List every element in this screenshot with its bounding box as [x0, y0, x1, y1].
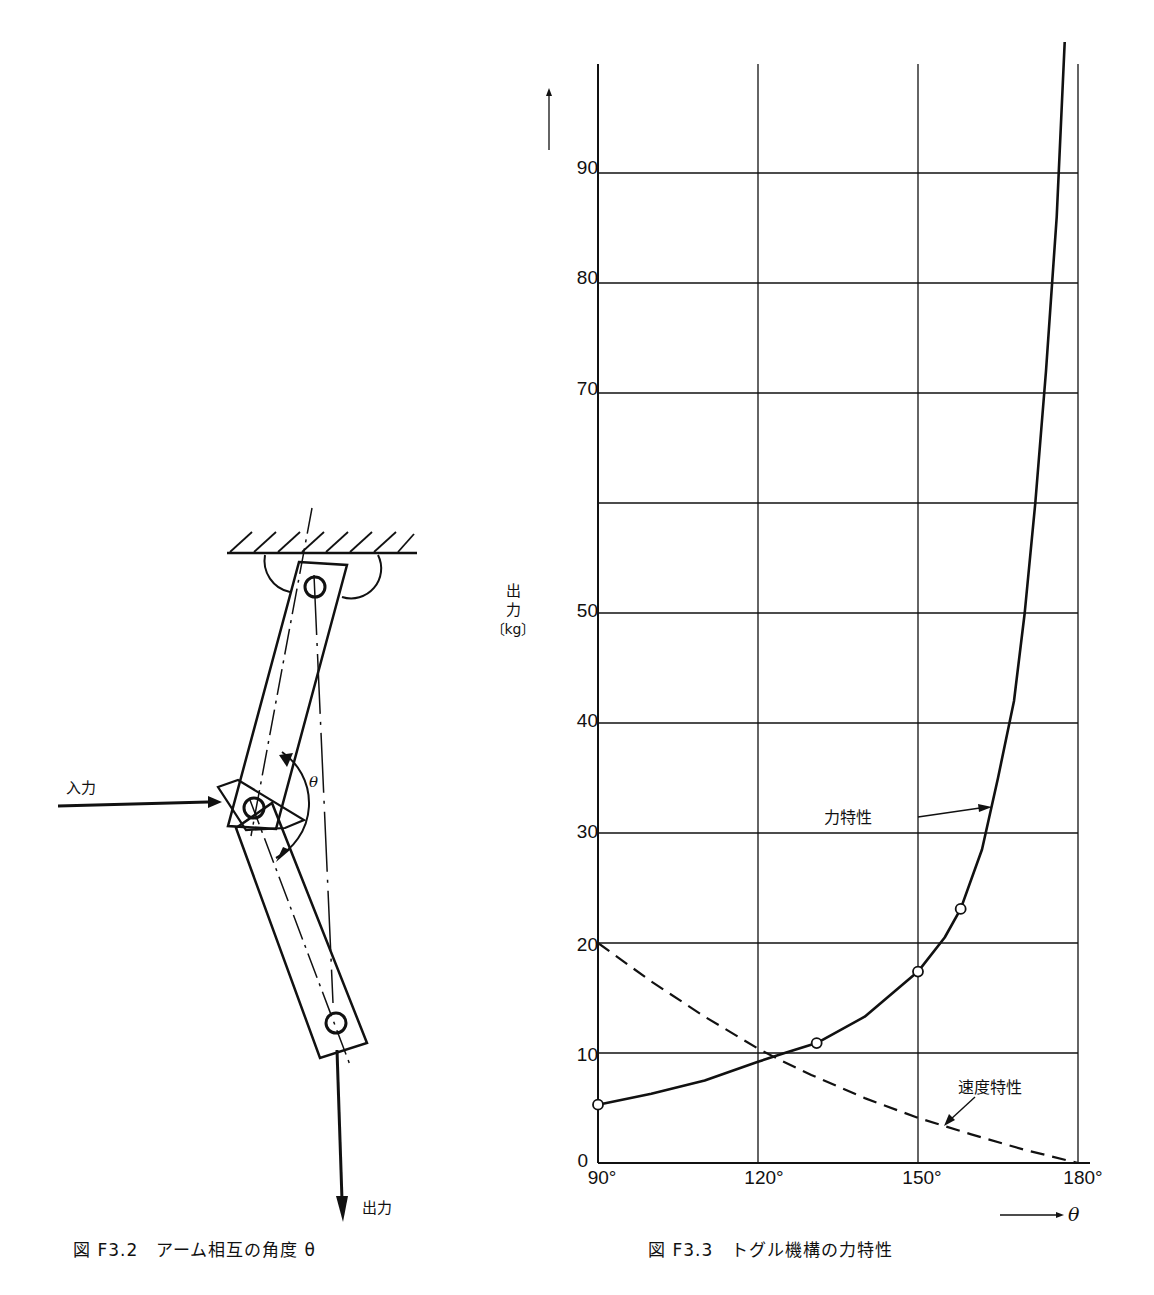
y-tick-40: 40 [548, 710, 598, 732]
x-tick-120: 120° [729, 1167, 799, 1189]
y-label-line-3: 〔kg〕 [488, 620, 538, 639]
y-axis-label: 出 力 〔kg〕 [488, 582, 538, 639]
y-label-line-2: 力 [488, 601, 538, 620]
y-tick-10: 10 [548, 1044, 598, 1066]
y-tick-30: 30 [548, 821, 598, 843]
figure-caption-right: 図 F3.3 トグル機構の力特性 [648, 1236, 893, 1261]
x-tick-150: 150° [887, 1167, 957, 1189]
x-tick-180: 180° [1048, 1167, 1118, 1189]
x-tick-90: 90° [567, 1167, 637, 1189]
x-axis-theta-label: θ [1068, 1203, 1079, 1225]
y-tick-70: 70 [548, 378, 598, 400]
y-tick-50: 50 [548, 600, 598, 622]
y-tick-90: 90 [548, 157, 598, 179]
y-tick-20: 20 [548, 934, 598, 956]
force-characteristic-label: 力特性 [824, 804, 872, 828]
y-tick-80: 80 [548, 267, 598, 289]
y-label-line-1: 出 [488, 582, 538, 601]
y-axis-arrow [0, 0, 1154, 1295]
speed-characteristic-label: 速度特性 [958, 1074, 1022, 1098]
